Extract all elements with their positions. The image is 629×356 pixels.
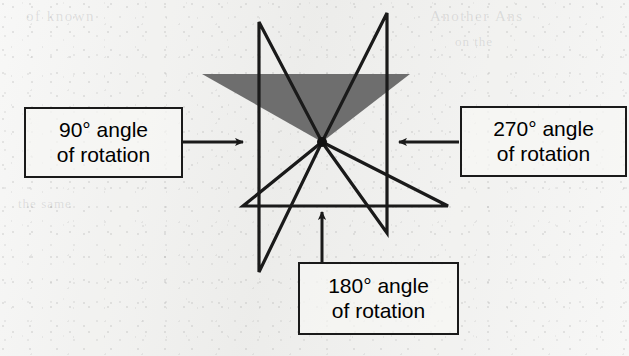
callout-90-line1: 90° angle xyxy=(59,118,148,143)
callout-rotation-180: 180° angle of rotation xyxy=(298,262,459,335)
callout-90-line2: of rotation xyxy=(57,143,150,168)
callout-270-line1: 270° angle xyxy=(493,117,594,142)
callout-180-line1: 180° angle xyxy=(328,274,429,299)
figure-canvas: of known Another Ans on the the same xyxy=(0,0,629,356)
callout-rotation-90: 90° angle of rotation xyxy=(24,107,183,178)
callout-rotation-270: 270° angle of rotation xyxy=(460,106,627,177)
center-of-rotation-dot xyxy=(317,137,327,147)
shaded-triangle-original xyxy=(202,74,410,142)
outlined-triangle-rotated-90 xyxy=(259,22,322,272)
callout-180-line2: of rotation xyxy=(332,299,425,324)
outlined-triangle-rotated-270 xyxy=(322,13,387,233)
callout-270-line2: of rotation xyxy=(497,142,590,167)
